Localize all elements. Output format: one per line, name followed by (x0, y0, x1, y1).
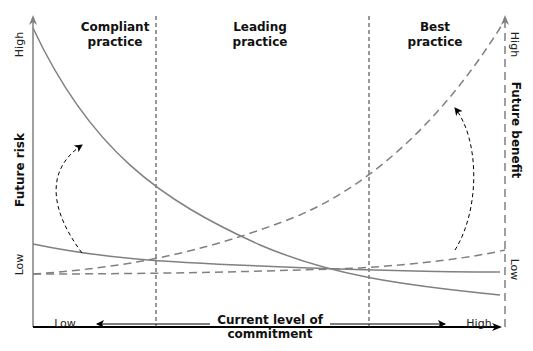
x-axis-low-label: Low (50, 317, 80, 330)
x-axis-high-label: High (459, 317, 499, 330)
x-axis-title-line: commitment (210, 327, 330, 341)
zone-label-line: practice (390, 35, 480, 50)
zone-label-line: practice (70, 35, 160, 50)
risk-shift-arrow (56, 145, 82, 253)
zone-label-line: Compliant (70, 20, 160, 35)
x-axis-title-line: Current level of (210, 313, 330, 327)
zone-label-best: Best practice (390, 20, 480, 50)
right-axis-high-label: High (508, 30, 521, 60)
low-benefit-curve (33, 250, 505, 274)
benefit-shift-arrow (455, 108, 474, 250)
zone-label-compliant: Compliant practice (70, 20, 160, 50)
x-axis-title: Current level of commitment (210, 313, 330, 341)
diagram-canvas (0, 0, 533, 351)
left-axis-low-label: Low (13, 250, 26, 280)
left-axis-high-label: High (13, 30, 26, 60)
zone-label-line: Best (390, 20, 480, 35)
right-axis-low-label: Low (508, 255, 521, 285)
zone-label-leading: Leading practice (215, 20, 305, 50)
high-benefit-curve (33, 20, 505, 274)
zone-label-line: practice (215, 35, 305, 50)
zone-label-line: Leading (215, 20, 305, 35)
right-axis-title: Future benefit (509, 75, 523, 185)
left-axis-title: Future risk (13, 125, 27, 215)
